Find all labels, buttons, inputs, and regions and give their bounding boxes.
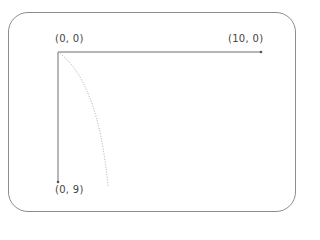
origin-label: (0, 0) [55, 33, 84, 44]
x-end-label: (10, 0) [228, 33, 263, 44]
y-end-label: (0, 9) [55, 184, 84, 195]
dotted-curve [58, 52, 108, 186]
x-axis-endpoint [260, 51, 263, 54]
y-axis-endpoint [57, 181, 60, 184]
